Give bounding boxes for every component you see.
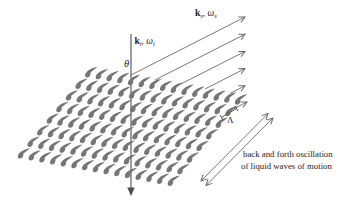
wave-crest — [91, 135, 103, 145]
wave-crest — [79, 119, 91, 129]
wave-crest — [67, 104, 79, 114]
wave-crest — [110, 112, 122, 122]
wave-crest — [175, 137, 187, 147]
wave-crest — [106, 71, 118, 81]
wave-crest — [151, 106, 163, 116]
wave-crest — [78, 106, 90, 116]
wave-crest — [123, 141, 135, 151]
wave-crest — [186, 139, 198, 149]
wave-crest — [109, 98, 121, 108]
wave-crest — [165, 148, 177, 158]
wave-crest — [139, 77, 151, 87]
wave-crest — [164, 135, 176, 145]
wave-crest — [57, 115, 69, 125]
scattered-beam-arrow — [130, 17, 245, 75]
wave-crest — [108, 84, 120, 94]
scattered-beam-arrow — [155, 34, 245, 80]
wave-crest — [143, 131, 155, 141]
wave-crest — [112, 139, 124, 149]
wave-crest — [154, 133, 166, 143]
wave-crest — [192, 87, 204, 97]
wave-crest — [162, 108, 174, 118]
wave-crest — [122, 127, 134, 137]
wave-crest — [37, 125, 49, 135]
wave-crest — [96, 69, 108, 79]
wave-crest — [156, 160, 168, 170]
wave-crest — [66, 90, 78, 100]
wave-crest — [80, 133, 92, 143]
wave-crest — [168, 176, 180, 186]
wave-crest — [101, 137, 113, 147]
wave-crest — [113, 152, 125, 162]
wave-crest — [58, 129, 70, 139]
wave-crest — [27, 137, 39, 147]
wave-crest — [163, 121, 175, 131]
wave-crest — [150, 92, 162, 102]
down-arrowhead-icon — [127, 188, 134, 197]
wave-crest — [193, 100, 205, 110]
wave-crest — [86, 81, 98, 91]
wave-crest — [47, 113, 59, 123]
wave-crest — [89, 121, 101, 131]
wave-crest — [142, 117, 154, 127]
wave-crest — [77, 92, 89, 102]
wave-crest — [177, 164, 189, 174]
wave-crest — [132, 129, 144, 139]
wave-crest — [103, 164, 115, 174]
wave-crest — [100, 123, 112, 133]
wave-crest — [48, 127, 60, 137]
wave-crest — [69, 131, 81, 141]
scattered-wave-label: ks,ωs — [195, 8, 217, 19]
wave-crest — [203, 88, 215, 98]
wave-crest — [155, 146, 167, 156]
oscillation-caption-line2: of liquid waves of motion — [241, 161, 332, 171]
wave-crest — [92, 148, 104, 158]
wave-crest — [195, 127, 207, 137]
wave-crest — [144, 145, 156, 155]
wave-crest — [38, 139, 50, 149]
wave-crest — [119, 100, 131, 110]
wave-crest — [98, 96, 110, 106]
wave-crest — [29, 150, 41, 160]
wave-crest — [224, 92, 236, 102]
wave-crest — [102, 150, 114, 160]
wave-crest — [141, 104, 153, 114]
wave-crest — [181, 85, 193, 95]
wave-crest — [213, 90, 225, 100]
oscillation-caption-line1: back and forth oscillation — [243, 149, 333, 159]
wave-crest — [176, 150, 188, 160]
wave-crest — [194, 114, 206, 124]
wave-crest — [174, 123, 186, 133]
wave-crest — [206, 129, 218, 139]
figure-liquid-surface-wave-scattering: ki,ωi ks,ωs θ Λ back and forth oscillati… — [0, 0, 349, 205]
theta-angle-label: θ — [124, 58, 129, 69]
wave-crest — [145, 158, 157, 168]
wave-crest — [49, 141, 61, 151]
wave-crest — [131, 115, 143, 125]
wave-crest — [184, 112, 196, 122]
wave-crest — [136, 170, 148, 180]
wave-crest — [187, 152, 199, 162]
wave-crest — [130, 102, 142, 112]
wave-crest — [215, 104, 227, 114]
wave-crest — [196, 141, 208, 151]
wave-crest — [173, 110, 185, 120]
wave-crest — [71, 158, 83, 168]
wave-crest — [124, 154, 136, 164]
wave-crest — [61, 156, 73, 166]
wave-crest — [81, 146, 93, 156]
wave-crest — [75, 79, 87, 89]
wave-crest — [140, 90, 152, 100]
wave-crest — [205, 116, 217, 126]
scattered-beam-arrow — [180, 51, 245, 84]
wave-crest — [153, 119, 165, 129]
wave-crest — [157, 174, 169, 184]
wave-crest — [133, 143, 145, 153]
wave-crest — [128, 75, 140, 85]
wave-crest — [111, 125, 123, 135]
wave-crest — [85, 67, 97, 77]
wave-crest — [204, 102, 216, 112]
scattered-beam-arrow — [205, 69, 245, 89]
wave-crest — [97, 83, 109, 93]
wave-crest — [68, 117, 80, 127]
